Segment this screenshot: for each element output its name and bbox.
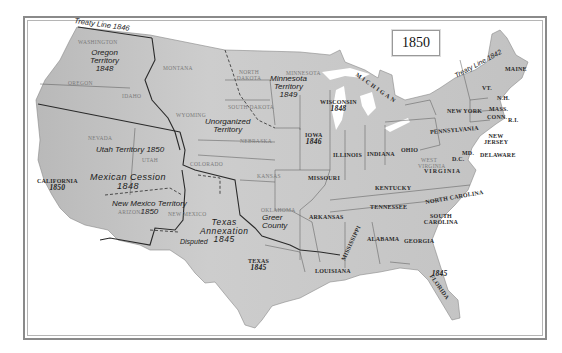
state-maine: MAINE: [505, 66, 527, 72]
label-greer-county: Greer County: [262, 214, 287, 230]
modern-label-colorado: COLORADO: [190, 162, 223, 168]
modern-label-oklahoma: OKLAHOMA: [261, 208, 295, 214]
state-nh: N.H.: [497, 95, 510, 101]
state-new-york: NEW YORK: [447, 108, 482, 114]
modern-label-north-dakota: NORTH DAKOTA: [236, 70, 262, 81]
modern-label-west-virginia: WEST VIRGINIA: [418, 158, 440, 169]
modern-label-idaho: IDAHO: [122, 94, 141, 100]
state-delaware: DELAWARE: [480, 152, 516, 158]
modern-label-montana: MONTANA: [163, 66, 193, 72]
label-unorganized-territory: Unorganized Territory: [205, 118, 250, 134]
state-ri: R.I.: [508, 117, 518, 123]
state-florida: 1845FLORIDA: [425, 270, 454, 290]
modern-label-kansas: KANSAS: [257, 174, 281, 180]
state-mass: MASS.: [489, 106, 508, 112]
state-georgia: GEORGIA: [404, 238, 434, 244]
year-title: 1850: [402, 35, 430, 51]
state-alabama: ALABAMA: [367, 236, 399, 242]
state-louisiana: LOUISIANA: [315, 268, 351, 274]
state-iowa: IOWA1846: [305, 132, 322, 146]
state-vt: VT.: [482, 85, 492, 91]
modern-label-nebraska: NEBRASKA: [240, 139, 272, 145]
state-kentucky: KENTUCKY: [375, 185, 411, 191]
label-mexican-cession: Mexican Cession 1848: [90, 173, 166, 191]
state-arkansas: ARKANSAS: [309, 214, 344, 220]
us-1850-map: [0, 0, 562, 353]
modern-label-nevada: NEVADA: [88, 136, 112, 142]
state-texas: TEXAS1845: [248, 258, 269, 272]
state-tennessee: TENNESSEE: [370, 204, 407, 210]
label-minnesota-territory: Minnesota Territory 1849: [270, 75, 307, 99]
state-dc: D.C.: [452, 156, 464, 162]
state-new-jersey: NEW JERSEY: [484, 133, 508, 145]
state-illinois: ILLINOIS: [333, 152, 362, 158]
modern-label-arizona: ARIZONA: [118, 210, 145, 216]
state-conn: CONN.: [487, 114, 507, 120]
modern-label-south-dakota: SOUTH DAKOTA: [228, 105, 274, 111]
label-disputed: Disputed: [180, 238, 208, 245]
label-oregon-territory: Oregon Territory 1848: [90, 49, 119, 73]
modern-label-oregon: OREGON: [68, 81, 93, 87]
year-title-box: 1850: [392, 30, 440, 56]
modern-label-minnesota: MINNESOTA: [286, 71, 321, 77]
state-ohio: OHIO: [401, 147, 418, 153]
state-south-carolina: SOUTH CAROLINA: [423, 213, 459, 225]
state-wisconsin: WISCONSIN1848: [320, 99, 357, 113]
modern-label-washington: WASHINGTON: [78, 40, 118, 46]
modern-label-utah: UTAH: [142, 158, 158, 164]
modern-label-new-mexico: NEW MEXICO: [168, 212, 207, 218]
state-indiana: INDIANA: [367, 151, 395, 157]
state-missouri: MISSOURI: [308, 175, 340, 181]
modern-label-wyoming: WYOMING: [176, 113, 206, 119]
label-utah-territory: Utah Territory 1850: [96, 146, 164, 154]
state-california: CALIFORNIA1850: [37, 178, 78, 192]
